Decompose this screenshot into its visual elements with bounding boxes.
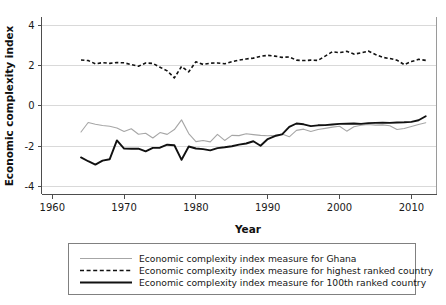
legend: Economic complexity index measure for Gh… bbox=[69, 244, 434, 295]
legend-label-1: Economic complexity index measure for hi… bbox=[139, 265, 434, 276]
y-tick-label-4: 4 bbox=[28, 20, 34, 31]
y-tick-label-0: 0 bbox=[28, 100, 34, 111]
legend-label-0: Economic complexity index measure for Gh… bbox=[139, 253, 356, 264]
y-axis-title: Economic complexity index bbox=[3, 25, 15, 186]
x-tick-label-1990: 1990 bbox=[255, 202, 280, 213]
y-tick-label-2: 2 bbox=[28, 60, 34, 71]
x-tick-label-1960: 1960 bbox=[40, 202, 65, 213]
economic-complexity-index-line-chart: 420-2-4 196019701980199020002010 Year Ec… bbox=[0, 0, 446, 305]
chart-figure: 420-2-4 196019701980199020002010 Year Ec… bbox=[0, 0, 446, 305]
x-tick-label-1970: 1970 bbox=[111, 202, 136, 213]
x-tick-label-1980: 1980 bbox=[183, 202, 208, 213]
y-tick-label--2: -2 bbox=[25, 141, 35, 152]
y-tick-label--4: -4 bbox=[25, 181, 35, 192]
x-tick-label-2010: 2010 bbox=[399, 202, 424, 213]
x-tick-label-2000: 2000 bbox=[327, 202, 352, 213]
x-axis-title: Year bbox=[234, 223, 262, 235]
legend-label-2: Economic complexity index measure for 10… bbox=[139, 277, 427, 288]
